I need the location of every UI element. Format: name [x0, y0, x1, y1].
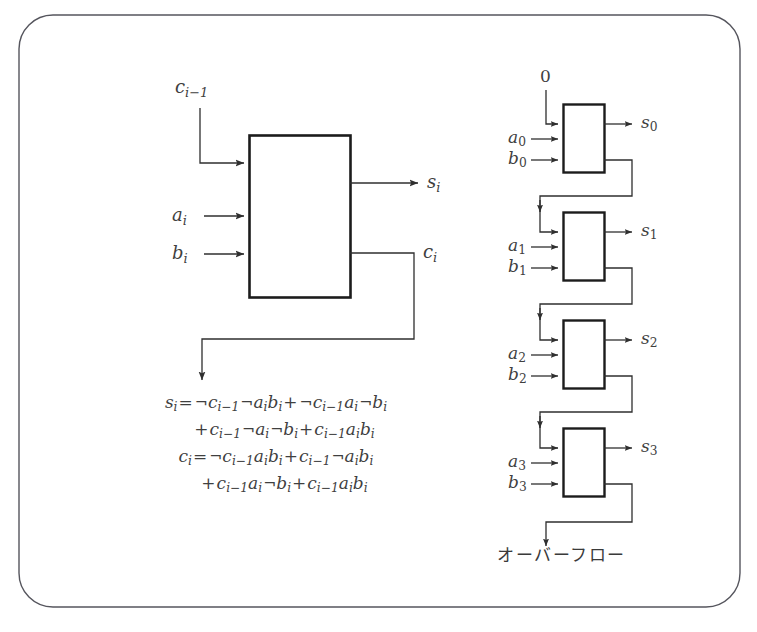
figure-root: ci−1 ai bi si ci si=¬ci−1¬aibi+¬ci−1ai¬b… [0, 0, 757, 632]
adder-stage-box-0 [564, 105, 605, 173]
adder-stage-b-label-1: b1 [508, 258, 527, 278]
adder-stage-sum-label-3: s3 [641, 438, 658, 458]
adder-stage-box-1 [564, 213, 605, 281]
adder-stage-a-label-3: a3 [508, 453, 526, 473]
adder-stage-sum-label-1: s1 [641, 222, 658, 242]
carry-in-wire [200, 108, 244, 163]
sum-equation-line-2: +ci−1¬ai¬bi+ci−1aibi [96, 417, 456, 444]
sum-equation-line-1: si=¬ci−1¬aibi+¬ci−1ai¬bi [96, 390, 456, 417]
carry-equation-line-1: ci=¬ci−1aibi+ci−1¬aibi [96, 444, 456, 471]
carry-equation-line-2: +ci−1ai¬bi+ci−1aibi [96, 471, 456, 498]
adder-stage-a-label-2: a2 [508, 345, 526, 365]
carry-seed-label: 0 [540, 68, 551, 85]
adder-stage-a-label-1: a1 [508, 237, 526, 257]
figure-canvas [0, 0, 757, 632]
b-input-label: bi [172, 244, 188, 266]
a-input-label: ai [172, 206, 187, 228]
adder-stage-box-2 [564, 321, 605, 389]
full-adder-block [250, 136, 351, 298]
adder-stage-b-label-2: b2 [508, 366, 527, 386]
sum-output-label: si [427, 173, 440, 195]
adder-stage-b-label-0: b0 [508, 150, 527, 170]
adder-stage-a-label-0: a0 [508, 129, 526, 149]
adder-stage-sum-label-2: s2 [641, 330, 658, 350]
adder-stage-sum-label-0: s0 [641, 114, 658, 134]
adder-stage-box-3 [564, 429, 605, 497]
carry-in-label: ci−1 [175, 78, 208, 100]
adder-stage-b-label-3: b3 [508, 474, 527, 494]
carry-output-label: ci [423, 243, 437, 265]
overflow-label: オーバーフロー [497, 541, 626, 566]
boolean-equations: si=¬ci−1¬aibi+¬ci−1ai¬bi+ci−1¬ai¬bi+ci−1… [96, 390, 456, 498]
carry-seed-wire [546, 90, 558, 124]
